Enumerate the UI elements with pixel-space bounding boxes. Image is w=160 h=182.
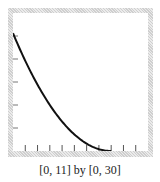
viewing-window-frame xyxy=(8,8,153,157)
plot-area xyxy=(13,13,148,151)
function-curve xyxy=(13,33,111,151)
graph-canvas xyxy=(13,13,148,151)
window-range-caption: [0, 11] by [0, 30] xyxy=(0,163,160,178)
x-axis-ticks xyxy=(25,145,135,151)
y-axis-ticks xyxy=(13,36,18,128)
